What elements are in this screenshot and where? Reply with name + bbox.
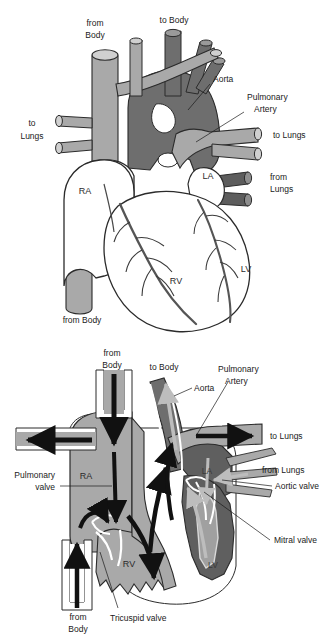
ventricular-mass [104, 191, 250, 331]
small-upper-vessel [130, 40, 142, 96]
label-cs-from-body-top-line1: from [104, 348, 121, 358]
small-upper-vessel-opening [130, 38, 142, 44]
label-cs-from-body-bottom-line2: Body [68, 624, 88, 634]
label-cs-from-body-bottom-line1: from [70, 612, 87, 622]
flow-arrow-ra-down [114, 452, 116, 522]
from-lungs-lower-opening [244, 194, 251, 206]
label-cs-left-ventricle: LV [208, 560, 218, 570]
label-cs-aorta: Aorta [194, 383, 215, 393]
from-lungs-upper-opening [244, 172, 251, 184]
label-from-body-top-line2: Body [85, 30, 105, 40]
branch-vessel-opening-1 [200, 40, 212, 46]
label-cs-left-atrium: LA [202, 466, 213, 476]
label-from-body-top-line1: from [87, 18, 104, 28]
label-left-ventricle: LV [241, 264, 251, 274]
crossing-vessel-opening [210, 50, 221, 57]
label-cs-to-body: to Body [150, 362, 180, 372]
inferior-vena-cava [66, 268, 92, 314]
to-lungs-right-upper-opening [254, 128, 261, 140]
pulmonary-vein-3-crosssection [226, 484, 272, 497]
label-pulmonary-artery-line1: Pulmonary [247, 92, 288, 102]
panel-heart-exterior: from Body to Body Aorta Pulmonary Artery… [0, 0, 331, 340]
leader-aorta-cs [174, 388, 192, 396]
label-to-body: to Body [160, 15, 190, 25]
to-lungs-left-lower-vessel [58, 140, 92, 153]
label-left-atrium: LA [202, 171, 213, 181]
label-cs-from-body-top-line2: Body [102, 360, 122, 370]
label-cs-mitral-valve: Mitral valve [274, 535, 317, 545]
label-aorta: Aorta [213, 74, 234, 84]
label-to-lungs-left-line1: to [28, 118, 35, 128]
label-cs-from-lungs: from Lungs [262, 465, 305, 475]
to-lungs-left-lower-opening [56, 142, 63, 153]
panel-heart-cross-section: from Body to Body Aorta Pulmonary Artery… [0, 340, 331, 642]
label-from-lungs-line1: from [270, 172, 287, 182]
label-right-atrium: RA [79, 186, 92, 196]
svc-opening [92, 50, 118, 60]
label-cs-to-lungs-right: to Lungs [270, 431, 303, 441]
label-cs-right-atrium: RA [80, 471, 93, 481]
flow-arrow-la-to-lv [206, 458, 208, 504]
label-from-body-bottom: from Body [63, 315, 102, 325]
label-to-lungs-right: to Lungs [273, 130, 306, 140]
label-right-ventricle: RV [170, 276, 182, 286]
to-body-vessel-opening [165, 29, 181, 36]
label-cs-pulmonary-artery-line2: Artery [225, 376, 248, 386]
to-lungs-left-upper-opening [56, 115, 63, 126]
heart-anatomy-figure: from Body to Body Aorta Pulmonary Artery… [0, 0, 331, 642]
label-cs-pulmonary-artery-line1: Pulmonary [218, 364, 259, 374]
label-cs-aortic-valve: Aortic valve [275, 481, 319, 491]
label-cs-tricuspid-valve: Tricuspid valve [110, 613, 167, 623]
label-to-lungs-left-line2: Lungs [20, 131, 43, 141]
label-cs-right-ventricle: RV [123, 559, 135, 569]
label-cs-pulmonary-valve-line2: valve [35, 482, 55, 492]
label-pulmonary-artery-line2: Artery [254, 104, 277, 114]
crosssection-artwork [16, 370, 277, 610]
label-cs-pulmonary-valve-line1: Pulmonary [14, 470, 55, 480]
label-from-lungs-line2: Lungs [270, 184, 293, 194]
to-lungs-left-upper-vessel [58, 116, 92, 128]
to-lungs-right-lower-opening [254, 148, 261, 160]
pulmonary-vein-1-crosssection [226, 448, 276, 466]
flow-arrow-pa-up [168, 444, 173, 520]
